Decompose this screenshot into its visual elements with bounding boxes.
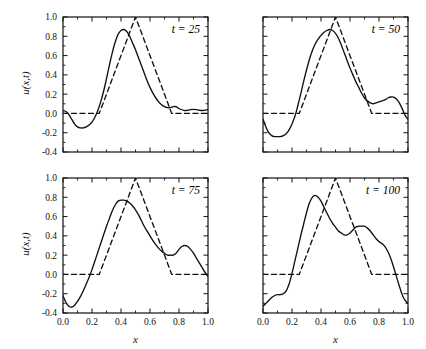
x-tick-label: 1.0 [202, 317, 214, 327]
plot-panel-t100: 0.00.20.40.60.81.0t = 100 [221, 168, 418, 343]
x-axis-label: x [126, 333, 146, 345]
x-tick-label: 0.8 [373, 317, 385, 327]
y-tick-label: 0.4 [45, 70, 57, 80]
x-tick-label: 0.4 [115, 317, 127, 327]
x-tick-label: 0.0 [257, 317, 269, 327]
y-tick-label: 1.0 [45, 173, 57, 183]
x-tick-label: 1.0 [402, 317, 414, 327]
y-tick-label: 1.0 [45, 12, 57, 22]
figure-container: -0.4-0.20.00.20.40.60.81.0t = 25t = 50-0… [0, 0, 426, 349]
x-tick-label: 0.8 [173, 317, 185, 327]
time-annotation: t = 50 [372, 23, 400, 35]
plot-frame [263, 17, 408, 152]
y-axis-label: u(x,t) [19, 224, 31, 264]
y-tick-label: 0.8 [45, 193, 57, 203]
time-annotation: t = 75 [172, 184, 200, 196]
plot-area: -0.4-0.20.00.20.40.60.81.00.00.20.40.60.… [21, 168, 218, 343]
y-tick-label: 0.2 [45, 90, 57, 100]
x-tick-label: 0.2 [286, 317, 298, 327]
y-tick-label: 0.6 [45, 51, 57, 61]
plot-panel-t50: t = 50 [221, 7, 418, 182]
numerical-solution-curve [63, 200, 208, 307]
x-tick-label: 0.6 [344, 317, 356, 327]
y-tick-label: 0.2 [45, 251, 57, 261]
y-tick-label: 0.8 [45, 32, 57, 42]
plot-area: 0.00.20.40.60.81.0t = 100 [221, 168, 418, 343]
y-tick-label: -0.4 [42, 308, 57, 318]
x-tick-label: 0.6 [144, 317, 156, 327]
y-tick-label: -0.2 [42, 289, 57, 299]
y-tick-label: 0.6 [45, 212, 57, 222]
plot-panel-t25: -0.4-0.20.00.20.40.60.81.0t = 25 [21, 7, 218, 182]
numerical-solution-curve [263, 30, 408, 137]
plot-area: -0.4-0.20.00.20.40.60.81.0t = 25 [21, 7, 218, 182]
time-annotation: t = 100 [366, 184, 400, 196]
y-tick-label: 0.4 [45, 231, 57, 241]
y-tick-label: 0.0 [45, 270, 57, 280]
x-tick-label: 0.4 [315, 317, 327, 327]
numerical-solution-curve [263, 195, 408, 306]
plot-panel-t75: -0.4-0.20.00.20.40.60.81.00.00.20.40.60.… [21, 168, 218, 343]
y-axis-label: u(x,t) [19, 63, 31, 103]
y-tick-label: -0.4 [42, 147, 57, 157]
plot-frame [63, 17, 208, 152]
y-tick-label: -0.2 [42, 128, 57, 138]
x-axis-label: x [326, 333, 346, 345]
time-annotation: t = 25 [172, 23, 200, 35]
x-tick-label: 0.2 [86, 317, 98, 327]
y-tick-label: 0.0 [45, 109, 57, 119]
plot-area: t = 50 [221, 7, 418, 182]
x-tick-label: 0.0 [57, 317, 69, 327]
